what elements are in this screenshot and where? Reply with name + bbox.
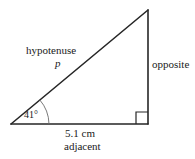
hypotenuse-line (11, 10, 148, 124)
right-triangle-figure: hypotenuse p opposite 5.1 cm adjacent 41… (0, 0, 195, 159)
adjacent-measure-label: 5.1 cm (65, 128, 95, 139)
hypotenuse-label: hypotenuse (26, 45, 76, 56)
angle-arc (40, 100, 49, 124)
hypotenuse-variable-label: p (55, 58, 61, 69)
opposite-label: opposite (152, 59, 189, 70)
angle-label: 41° (24, 110, 38, 120)
right-angle-marker-icon (136, 112, 148, 124)
triangle-drawing (0, 0, 195, 159)
adjacent-label: adjacent (64, 141, 101, 152)
